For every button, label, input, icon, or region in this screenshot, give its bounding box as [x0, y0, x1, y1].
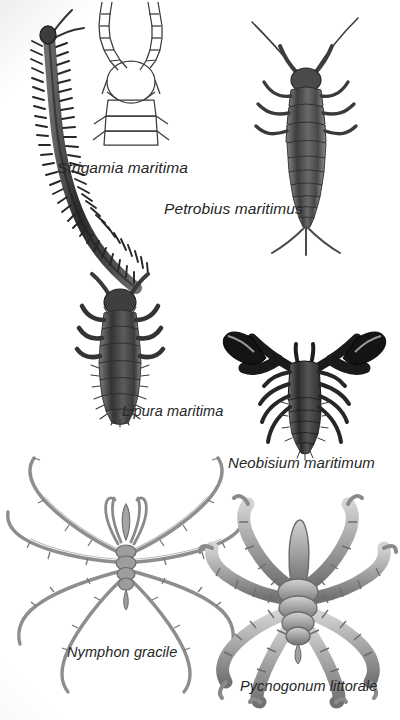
pseudoscorpion-pedipalp-left — [223, 332, 292, 370]
label-neobisium-maritimum: Neobisium maritimum — [228, 455, 375, 470]
detail-antenna-right — [140, 2, 162, 70]
label-pycnogonum-littorale: Pycnogonum littorale — [240, 679, 377, 694]
label-petrobius-maritimus: Petrobius maritimus — [164, 201, 303, 217]
specimen-neobisium — [222, 312, 387, 462]
bristletail-caudal-filaments — [272, 227, 340, 255]
nymphon-proboscis — [122, 504, 130, 540]
nymphon-trunk — [116, 545, 136, 590]
detail-forcipules — [102, 80, 160, 100]
label-nymphon-gracile: Nymphon gracile — [67, 645, 177, 660]
pycnogonum-proboscis — [289, 520, 309, 584]
nymphon-abdomen — [124, 590, 129, 610]
detail-segment-2 — [105, 116, 157, 131]
pycnogonum-abdomen — [295, 644, 301, 664]
bristletail-antennae — [252, 18, 358, 70]
detail-antenna-left — [99, 2, 127, 70]
illustration-plate: Strigamia maritima Petrobius maritimus L… — [0, 0, 400, 720]
pseudoscorpion-cephalothorax — [288, 361, 321, 403]
specimen-pycnogonum — [198, 492, 398, 702]
pseudoscorpion-abdomen — [289, 398, 321, 455]
label-strigamia-maritima: Strigamia maritima — [57, 160, 188, 176]
specimen-petrobius — [228, 12, 398, 257]
pseudoscorpion-pedipalp-right — [317, 332, 386, 370]
label-lipura-maritima: Lipura maritima — [122, 404, 223, 419]
specimen-strigamia-head-detail — [80, 0, 200, 150]
detail-segment-3 — [104, 131, 158, 145]
